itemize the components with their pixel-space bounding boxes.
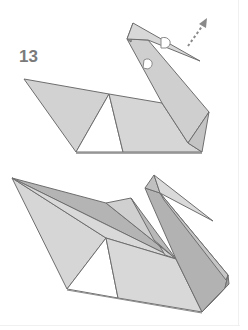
- fold-marker-icon: [161, 37, 170, 48]
- origami-illustration: [0, 0, 248, 330]
- pull-arrow-icon: [188, 18, 207, 46]
- fold-marker-icon: [143, 59, 152, 69]
- swan-finished: [12, 175, 229, 313]
- page-edge-right: [238, 0, 239, 326]
- swan-step-13-fold: [24, 23, 209, 153]
- page-edge-bottom: [0, 325, 240, 326]
- diagram-canvas: 13: [0, 0, 248, 330]
